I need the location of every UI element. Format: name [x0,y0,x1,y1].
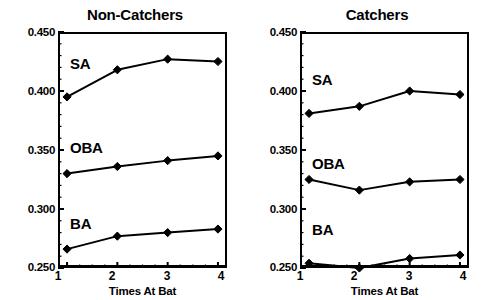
figure-two-panel-line-charts: Non-Catchers 0.450 0.400 0.350 0.300 0.2… [0,0,493,300]
plot-lines-layer [0,0,246,300]
chart-panel-non-catchers: Non-Catchers 0.450 0.400 0.350 0.300 0.2… [0,0,246,300]
chart-panel-catchers: Catchers 0.450 0.400 0.350 0.300 0.250 1… [242,0,488,300]
plot-lines-layer [242,0,488,300]
